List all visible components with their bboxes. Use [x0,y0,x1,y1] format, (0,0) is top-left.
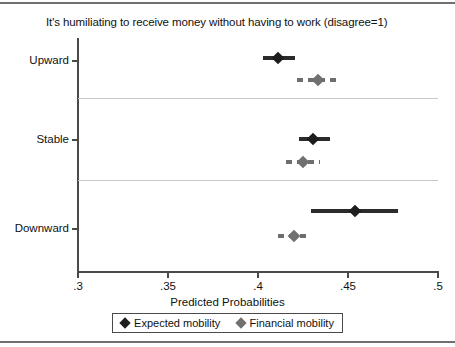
x-tick-1 [167,272,169,278]
legend-entry-expected-mobility: Expected mobility [121,317,220,329]
x-tick-label-0: .3 [73,280,83,292]
diamond-icon-financial [235,317,246,328]
marker-expected-downward [349,205,362,218]
y-label-downward: Downward [15,222,69,234]
marker-expected-upward [272,52,285,65]
x-tick-label-1: .35 [160,280,176,292]
x-tick-label-2: .4 [253,280,263,292]
marker-financial-downward [288,230,301,243]
x-tick-0 [77,272,79,278]
x-tick-3 [347,272,349,278]
y-label-stable: Stable [36,133,69,145]
grid-separator-upward-stable [78,98,438,99]
chart-figure: It's humiliating to receive money withou… [0,0,455,347]
legend-entry-financial-mobility: Financial mobility [237,317,334,329]
top-divider-rule [0,2,455,4]
y-tick-downward [72,228,78,230]
x-axis-title: Predicted Probabilities [0,296,455,308]
chart-title: It's humiliating to receive money withou… [46,16,387,28]
marker-financial-stable [297,156,310,169]
marker-financial-upward [312,74,325,87]
plot-area: Upward Stable Downward [78,38,438,272]
x-tick-4 [437,272,439,278]
chart-legend: Expected mobility Financial mobility [112,313,343,333]
y-tick-stable [72,139,78,141]
x-tick-label-3: .45 [340,280,356,292]
diamond-icon-expected [119,317,130,328]
marker-expected-stable [307,133,320,146]
grid-separator-stable-downward [78,180,438,181]
y-tick-upward [72,60,78,62]
y-label-upward: Upward [29,54,69,66]
x-tick-2 [257,272,259,278]
legend-label-financial: Financial mobility [250,317,334,329]
bottom-divider-rule [0,341,455,343]
x-tick-label-4: .5 [433,280,443,292]
legend-label-expected: Expected mobility [134,317,220,329]
